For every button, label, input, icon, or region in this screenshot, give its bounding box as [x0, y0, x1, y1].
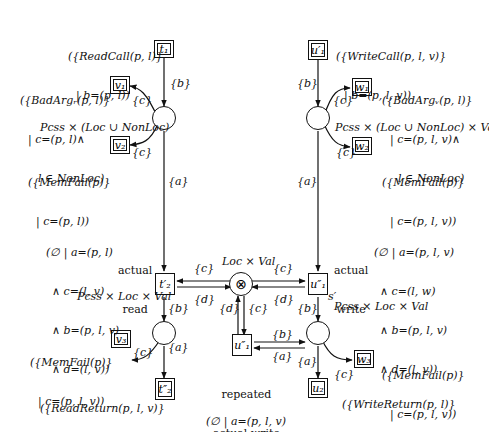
- transition-w2: w₂: [352, 137, 372, 155]
- arc-label-c: {c}: [336, 146, 356, 159]
- arc-label-b: {b}: [168, 302, 189, 315]
- arc-label-c: {c}: [273, 262, 293, 275]
- arc-placebottom-w3: [322, 340, 352, 360]
- memory-symbol-icon: ⊗: [235, 276, 247, 292]
- place-write-bottom: [306, 321, 330, 345]
- arc-label-d: {d}: [194, 293, 215, 306]
- arc-label-a: {a}: [272, 350, 293, 363]
- transition-repeated-write: u″₁: [232, 334, 252, 356]
- arc-label-c: {c}: [333, 94, 353, 107]
- arc-label-c: {c}: [132, 94, 152, 107]
- transition-u1-prime: u′₁: [308, 40, 328, 60]
- memory-place-type: Loc × Val: [222, 255, 275, 268]
- arc-label-b: {b}: [297, 77, 318, 90]
- read-bottom-place-type: Pcss × Loc × Val: [77, 290, 171, 303]
- write-bottom-place-type: Pcss × Loc × Val: [334, 300, 428, 313]
- arc-label-b: {b}: [170, 77, 191, 90]
- t2pp-annotation: ({ReadReturn(p, l, v)} | a=(p, l, v)): [40, 376, 165, 432]
- place-memory: ⊗: [229, 272, 253, 296]
- arc-label-a: {a}: [168, 175, 189, 188]
- petri-net-diagram: ⊗ t₁ v₁ v₂ t′₂ v₃ t″₂ u′₁ w₁ w₂ u″₁ w₃ u…: [0, 0, 489, 432]
- arc-label-a: {a}: [297, 355, 318, 368]
- arc-label-b: {b}: [297, 302, 318, 315]
- arc-label-c: {c}: [248, 302, 268, 315]
- transition-u1-double-prime: u″₁: [308, 273, 328, 295]
- arc-label-d: {d}: [219, 302, 240, 315]
- u1pp-caption: actual write: [334, 238, 368, 329]
- arc-label-a: {a}: [168, 341, 189, 354]
- u2-annotation: ({WriteReturn(p, l)} | a=(p, l, v)): [342, 372, 456, 432]
- arc-label-b: {b}: [272, 328, 293, 341]
- arc-label-c: {c}: [334, 368, 354, 381]
- repeated-annotation: (∅ | a=(p, l, v) ∧ c=(l, w) ∧ b=(p, l, v…: [206, 389, 286, 432]
- arc-label-c: {c}: [194, 262, 214, 275]
- arc-label-c: {c}: [132, 146, 152, 159]
- write-top-place-type: Pcss × (Loc ∪ NonLoc) × Val: [335, 121, 489, 134]
- transition-v2: v₂: [110, 136, 130, 154]
- read-top-place-type: Pcss × (Loc ∪ NonLoc): [40, 121, 169, 134]
- place-write-top: [306, 106, 330, 130]
- arc-label-c: {c}: [133, 346, 153, 359]
- arc-label-d: {d}: [273, 293, 294, 306]
- transition-w3: w₃: [354, 350, 374, 368]
- t2p-caption: actual read: [118, 238, 152, 329]
- transition-u2: u₂: [308, 378, 328, 398]
- arc-label-a: {a}: [297, 175, 318, 188]
